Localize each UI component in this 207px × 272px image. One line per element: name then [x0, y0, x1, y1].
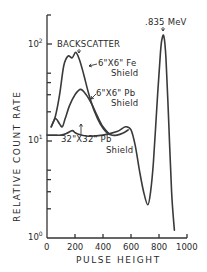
x-tick-label-200: 200	[67, 243, 83, 252]
x-tick-label-600: 600	[123, 243, 139, 252]
y-axis-label: RELATIVE COUNT RATE	[12, 90, 22, 222]
x-tick-label-1000: 1000	[176, 243, 198, 252]
y-tick-label-1: 100	[28, 231, 43, 242]
x-tick-label-0: 0	[44, 243, 49, 252]
annotation-backscatter: BACKSCATTER	[57, 40, 120, 49]
x-tick-label-400: 400	[95, 243, 111, 252]
annotation-pb6-shield-line1: 6"X6" Pb	[96, 89, 135, 98]
annotation-pb6-shield-line2: Shield	[111, 99, 138, 108]
x-axis-label: PULSE HEIGHT	[76, 256, 161, 265]
annotation-fe-shield-line2: Shield	[111, 69, 138, 78]
y-tick-label-100: 102	[28, 38, 43, 49]
annotation-photopeak: .835 MeV	[145, 18, 187, 27]
annotation-pb32-shield-line2: Shield	[106, 146, 133, 155]
annotation-pb32-shield-line1: 32"X32" Pb	[61, 135, 112, 144]
annotation-fe-shield-line1: 6"X6" Fe	[98, 59, 136, 68]
y-tick-label-10: 101	[28, 134, 43, 145]
x-tick-label-800: 800	[151, 243, 167, 252]
